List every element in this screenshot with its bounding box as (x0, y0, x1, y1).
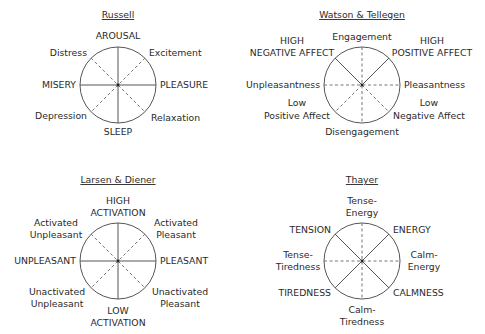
larsen-diener-label-bottom-left-1: Unactivated (29, 286, 85, 297)
watson-tellegen-label-top-left-1: HIGH (280, 35, 304, 46)
russell-label-top: AROUSAL (96, 30, 141, 41)
thayer-title: Thayer (345, 174, 378, 185)
russell-diagram: Russell AROUSAL Distress Excitement MISE… (35, 9, 208, 137)
larsen-diener-title: Larsen & Diener (80, 174, 155, 185)
watson-tellegen-label-top-left-2: NEGATIVE AFFECT (250, 47, 335, 58)
thayer-label-left-1: Tense- (282, 249, 313, 260)
watson-tellegen-label-top-right-1: HIGH (420, 35, 444, 46)
thayer-diagram: Thayer Tense- Energy TENSION ENERGY Tens… (275, 174, 444, 327)
thayer-center-dot (361, 260, 364, 263)
watson-tellegen-upper-left-radius (335, 58, 362, 85)
thayer-label-top-left: TENSION (289, 224, 331, 235)
watson-tellegen-label-bottom-right-2: Negative Affect (393, 110, 465, 121)
watson-tellegen-label-left: Unpleasantness (246, 79, 320, 90)
thayer-label-top-right: ENERGY (393, 224, 431, 235)
larsen-diener-label-bottom-left-2: Unpleasant (31, 298, 84, 309)
russell-label-top-right: Excitement (149, 47, 202, 58)
thayer-label-top-1: Tense- (346, 195, 377, 206)
larsen-diener-label-bottom-2: ACTIVATION (90, 317, 145, 328)
russell-label-bottom-left: Depression (35, 110, 87, 121)
watson-tellegen-label-bottom: Disengagement (325, 126, 399, 137)
russell-label-bottom: SLEEP (104, 126, 133, 137)
larsen-diener-center-dot (117, 260, 120, 263)
thayer-label-bottom-left: TIREDNESS (277, 287, 331, 298)
watson-tellegen-lower-right-radius (362, 85, 389, 112)
thayer-label-left-2: Tiredness (275, 261, 321, 272)
thayer-label-bottom-2: Tiredness (339, 316, 385, 327)
watson-tellegen-diagram: Watson & Tellegen Engagement HIGH NEGATI… (246, 9, 472, 137)
larsen-diener-label-top-1: HIGH (106, 195, 130, 206)
watson-tellegen-label-top-right-2: POSITIVE AFFECT (392, 47, 473, 58)
larsen-diener-label-top-right-1: Activated (154, 217, 198, 228)
thayer-label-top-2: Energy (346, 207, 379, 218)
watson-tellegen-label-bottom-left-1: Low (288, 97, 307, 108)
russell-label-left: MISERY (42, 79, 76, 90)
thayer-label-bottom-1: Calm- (348, 304, 375, 315)
watson-tellegen-title: Watson & Tellegen (319, 9, 405, 20)
thayer-label-bottom-right: CALMNESS (393, 287, 444, 298)
affect-circumplex-figure: Russell AROUSAL Distress Excitement MISE… (0, 0, 485, 334)
russell-title: Russell (102, 9, 135, 20)
larsen-diener-label-top-left-2: Unpleasant (30, 229, 83, 240)
russell-label-bottom-right: Relaxation (151, 112, 200, 123)
watson-tellegen-label-bottom-left-2: Positive Affect (264, 110, 330, 121)
larsen-diener-label-top-left-1: Activated (34, 217, 78, 228)
watson-tellegen-label-top: Engagement (332, 31, 392, 42)
watson-tellegen-upper-right-radius (362, 58, 389, 85)
watson-tellegen-label-right: Pleasantness (404, 79, 465, 90)
larsen-diener-label-bottom-right-1: Unactivated (152, 286, 208, 297)
watson-tellegen-label-bottom-right-1: Low (420, 97, 439, 108)
larsen-diener-label-right: PLEASANT (160, 255, 208, 266)
larsen-diener-label-top-right-2: Pleasant (156, 229, 196, 240)
larsen-diener-diagram: Larsen & Diener HIGH ACTIVATION Activate… (14, 174, 208, 328)
larsen-diener-label-bottom-1: LOW (107, 305, 128, 316)
russell-center-dot (117, 84, 120, 87)
watson-tellegen-center-dot (361, 84, 364, 87)
russell-label-right: PLEASURE (160, 79, 208, 90)
larsen-diener-label-top-2: ACTIVATION (90, 207, 145, 218)
thayer-label-right-2: Energy (408, 261, 441, 272)
larsen-diener-label-bottom-right-2: Pleasant (160, 298, 200, 309)
watson-tellegen-lower-left-radius (335, 85, 362, 112)
thayer-label-right-1: Calm- (410, 249, 437, 260)
russell-label-top-left: Distress (50, 47, 87, 58)
larsen-diener-label-left: UNPLEASANT (14, 255, 76, 266)
